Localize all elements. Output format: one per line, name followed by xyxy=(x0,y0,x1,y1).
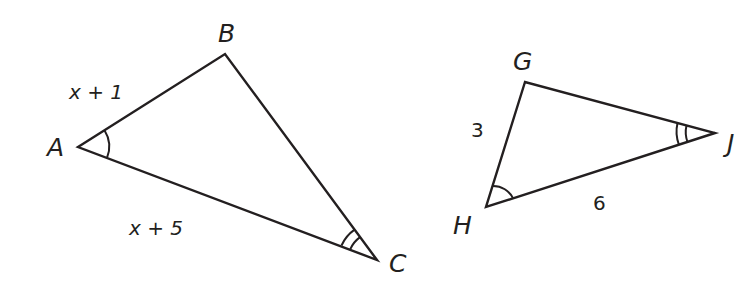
vertex-label-j: J xyxy=(722,129,734,158)
side-label-gh: 3 xyxy=(471,118,484,142)
similar-triangles-figure: A B C x + 1 x + 5 G H J 3 6 xyxy=(0,0,736,292)
vertex-label-c: C xyxy=(389,249,407,278)
triangle-abc: A B C x + 1 x + 5 xyxy=(45,19,407,278)
angle-h-mark xyxy=(493,186,513,198)
vertex-label-b: B xyxy=(218,19,235,48)
vertex-label-a: A xyxy=(45,133,64,162)
side-label-hj: 6 xyxy=(593,191,606,215)
side-label-ab: x + 1 xyxy=(68,80,123,104)
vertex-label-h: H xyxy=(453,211,472,240)
side-label-ac: x + 5 xyxy=(128,216,183,240)
triangle-ghj: G H J 3 6 xyxy=(453,47,734,240)
angle-a-mark xyxy=(105,130,110,158)
vertex-label-g: G xyxy=(513,47,532,76)
triangle-ghj-outline xyxy=(486,82,715,207)
